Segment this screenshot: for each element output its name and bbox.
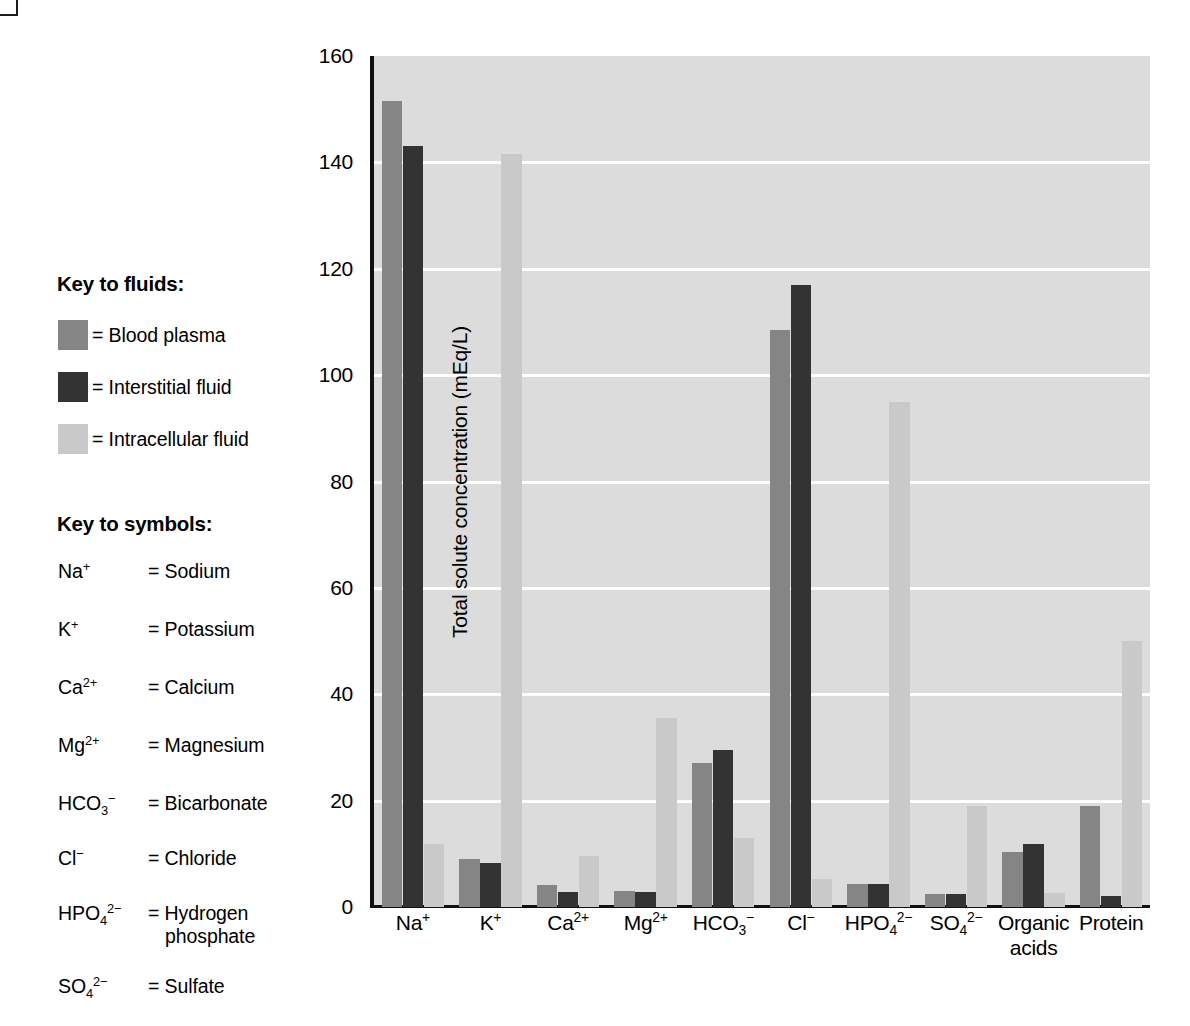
x-tick-label: Protein [1079, 911, 1143, 936]
legend-label-intracellular-fluid: = Intracellular fluid [92, 428, 249, 451]
symbol-definition: = Sulfate [148, 975, 225, 998]
bar [868, 884, 889, 907]
bars-layer [374, 56, 1150, 907]
symbol-row: Ca2+= Calcium [58, 676, 323, 699]
bar [791, 285, 812, 907]
bar [847, 884, 868, 907]
bar-group [995, 56, 1073, 907]
bar-group [840, 56, 918, 907]
bar [614, 891, 635, 907]
bar [734, 838, 755, 907]
symbol-formula: Cl− [58, 847, 148, 870]
symbol-formula: SO42− [58, 975, 148, 998]
symbol-definition: = Bicarbonate [148, 792, 268, 815]
symbol-definition-continued: phosphate [165, 925, 255, 948]
symbol-definition: = Hydrogenphosphate [148, 902, 255, 948]
symbol-formula: K+ [58, 618, 148, 641]
symbol-row: HCO3−= Bicarbonate [58, 792, 323, 815]
bar [537, 885, 558, 907]
crop-mark-icon [0, 0, 18, 16]
bar [1122, 641, 1143, 907]
x-tick-label: HCO3− [693, 911, 754, 936]
key-to-symbols-title: Key to symbols: [57, 512, 212, 536]
bar [967, 806, 988, 907]
symbol-formula: HCO3− [58, 792, 148, 815]
bar-group [1072, 56, 1150, 907]
symbol-row: Na+= Sodium [58, 560, 323, 583]
bar-group [684, 56, 762, 907]
y-tick-label: 0 [342, 895, 353, 919]
symbol-row: Mg2+= Magnesium [58, 734, 323, 757]
legend-swatch-intracellular-fluid [58, 424, 88, 454]
y-tick-label: 40 [330, 682, 353, 706]
bar [1023, 844, 1044, 907]
symbol-formula: HPO42− [58, 902, 148, 925]
symbol-row: HPO42−= Hydrogenphosphate [58, 902, 323, 948]
bar [925, 894, 946, 907]
bar [1101, 896, 1122, 907]
bar [656, 718, 677, 907]
bar [946, 894, 967, 907]
bar [579, 856, 600, 907]
bar [558, 892, 579, 907]
x-tick-label: Na+ [396, 911, 430, 936]
bar-group [452, 56, 530, 907]
y-tick-label: 20 [330, 789, 353, 813]
bar [692, 763, 713, 907]
y-tick-label: 160 [319, 44, 353, 68]
bar [1080, 806, 1101, 907]
symbol-row: K+= Potassium [58, 618, 323, 641]
symbol-definition: = Calcium [148, 676, 234, 699]
x-tick-label: HPO42− [845, 911, 912, 936]
figure-root: Key to fluids: = Blood plasma = Intersti… [0, 0, 1190, 1026]
x-tick-label: Ca2+ [547, 911, 588, 936]
y-tick-label: 100 [319, 363, 353, 387]
legend-label-interstitial-fluid: = Interstitial fluid [92, 376, 231, 399]
key-to-fluids-title: Key to fluids: [57, 272, 184, 296]
x-tick-label: SO42− [930, 911, 982, 936]
symbol-definition: = Potassium [148, 618, 255, 641]
x-axis-tick-labels: Na+K+Ca2+Mg2+HCO3−Cl−HPO42−SO42−Organica… [374, 911, 1150, 981]
legend-swatch-interstitial-fluid [58, 372, 88, 402]
legend-label-blood-plasma: = Blood plasma [92, 324, 226, 347]
symbol-formula: Mg2+ [58, 734, 148, 757]
x-tick-label: Cl− [787, 911, 814, 936]
bar [1002, 852, 1023, 907]
bar [770, 330, 791, 907]
bar-chart: 020406080100120140160 Total solute conce… [362, 56, 1150, 908]
symbol-formula: Ca2+ [58, 676, 148, 699]
bar [713, 750, 734, 907]
legend-swatch-blood-plasma [58, 320, 88, 350]
bar-group [607, 56, 685, 907]
legend-item-interstitial-fluid: = Interstitial fluid [58, 372, 231, 402]
x-tick-label: Organicacids [998, 911, 1069, 961]
bar-group [762, 56, 840, 907]
bar-group [529, 56, 607, 907]
bar [480, 863, 501, 907]
legend-item-blood-plasma: = Blood plasma [58, 320, 226, 350]
bar [889, 402, 910, 907]
y-tick-label: 140 [319, 150, 353, 174]
symbol-definition: = Magnesium [148, 734, 265, 757]
symbol-definition: = Chloride [148, 847, 236, 870]
symbol-row: Cl−= Chloride [58, 847, 323, 870]
y-tick-label: 60 [330, 576, 353, 600]
bar [403, 146, 424, 907]
y-tick-label: 80 [330, 470, 353, 494]
bar-group [917, 56, 995, 907]
symbol-definition: = Sodium [148, 560, 230, 583]
bar [1044, 893, 1065, 907]
symbol-formula: Na+ [58, 560, 148, 583]
symbol-row: SO42−= Sulfate [58, 975, 323, 998]
bar [812, 879, 833, 907]
bar [424, 844, 445, 907]
bar [382, 101, 403, 907]
legend-item-intracellular-fluid: = Intracellular fluid [58, 424, 249, 454]
bar [501, 154, 522, 907]
bar-group [374, 56, 452, 907]
bar [459, 859, 480, 907]
x-tick-label: Mg2+ [624, 911, 668, 936]
bar [635, 892, 656, 907]
x-tick-label: K+ [480, 911, 502, 936]
y-tick-label: 120 [319, 257, 353, 281]
